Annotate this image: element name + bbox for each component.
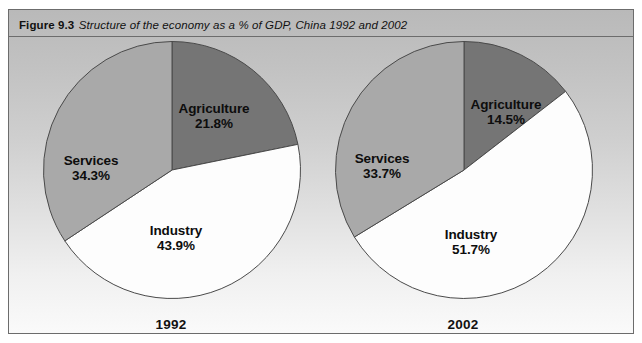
slice-value: 34.3%: [31, 168, 151, 183]
slice-name: Agriculture: [179, 101, 250, 116]
slice-name: Services: [355, 151, 410, 166]
pie-label-agriculture-2002: Agriculture 14.5%: [441, 97, 571, 127]
figure-number: Figure 9.3: [19, 19, 74, 31]
figure-frame: Figure 9.3 Structure of the economy as a…: [8, 9, 634, 334]
slice-name: Industry: [445, 227, 497, 242]
charts-container: Agriculture 21.8% Services 34.3% Industr…: [9, 37, 633, 334]
slice-value: 33.7%: [321, 166, 443, 181]
pie-label-services-1992: Services 34.3%: [31, 153, 151, 183]
pie-chart-1992: Agriculture 21.8% Services 34.3% Industr…: [21, 37, 321, 334]
slice-value: 43.9%: [116, 238, 236, 253]
figure-title-bar: Figure 9.3 Structure of the economy as a…: [9, 10, 633, 36]
pie-label-industry-2002: Industry 51.7%: [411, 227, 531, 257]
year-label-1992: 1992: [21, 317, 321, 332]
slice-name: Industry: [150, 223, 202, 238]
slice-name: Services: [64, 153, 119, 168]
figure-caption: Structure of the economy as a % of GDP, …: [79, 19, 408, 31]
slice-value: 21.8%: [149, 116, 279, 131]
slice-value: 51.7%: [411, 242, 531, 257]
slice-value: 14.5%: [441, 112, 571, 127]
pie-label-industry-1992: Industry 43.9%: [116, 223, 236, 253]
pie-label-services-2002: Services 33.7%: [321, 151, 443, 181]
slice-name: Agriculture: [471, 97, 542, 112]
pie-chart-2002: Agriculture 14.5% Services 33.7% Industr…: [313, 37, 613, 334]
year-label-2002: 2002: [313, 317, 613, 332]
pie-label-agriculture-1992: Agriculture 21.8%: [149, 101, 279, 131]
